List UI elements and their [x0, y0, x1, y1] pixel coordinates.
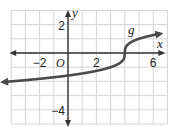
x-axis-left-arrow-icon [9, 50, 16, 56]
function-label-g: g [128, 22, 135, 37]
y-tick-label: −4 [51, 104, 65, 118]
y-tick-label: 2 [58, 19, 65, 33]
x-axis-label: x [156, 36, 163, 51]
y-axis-label: y [70, 5, 78, 20]
tick-labels: −2262−4 [33, 19, 157, 118]
y-axis-up-arrow-icon [65, 10, 71, 17]
origin-label: O [56, 56, 65, 70]
graph-canvas: x y g O −2262−4 [0, 0, 170, 131]
x-tick-label: 2 [93, 56, 100, 70]
x-tick-label: −2 [33, 56, 47, 70]
x-tick-label: 6 [150, 56, 157, 70]
curve-left-arrow-icon [0, 78, 8, 86]
